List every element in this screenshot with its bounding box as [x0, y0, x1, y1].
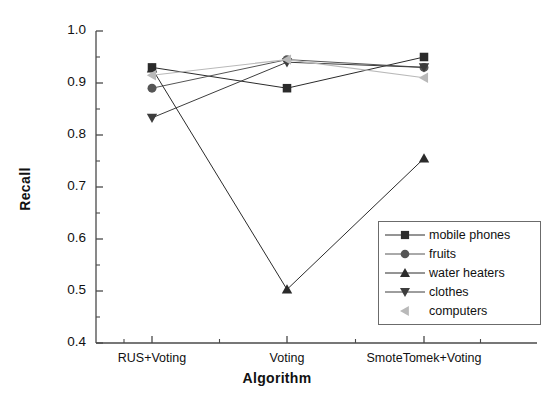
- y-tick-label: 0.7: [40, 178, 86, 193]
- legend-item-label: mobile phones: [427, 228, 510, 242]
- triangle-left-icon: [383, 301, 427, 320]
- triangle-up-icon: [383, 263, 427, 282]
- y-tick-label: 0.8: [40, 126, 86, 141]
- triangle-down-icon: [383, 282, 427, 301]
- y-tick-label: 0.6: [40, 230, 86, 245]
- x-tick-label: SmoteTomek+Voting: [334, 351, 514, 365]
- series-computers: [147, 54, 428, 83]
- circle-icon: [383, 244, 427, 263]
- chart-legend: mobile phonesfruitswater heatersclothesc…: [378, 221, 541, 325]
- legend-item-label: clothes: [427, 285, 469, 299]
- legend-rows: mobile phonesfruitswater heatersclothesc…: [383, 225, 536, 320]
- y-tick-label: 1.0: [40, 22, 86, 37]
- y-tick-label: 0.5: [40, 282, 86, 297]
- legend-item-label: fruits: [427, 247, 456, 261]
- legend-item-water-heaters[interactable]: water heaters: [383, 263, 536, 282]
- x-axis-label: Algorithm: [0, 370, 554, 386]
- chart-figure: Recall Algorithm 0.40.50.60.70.80.91.0 R…: [0, 0, 554, 411]
- square-icon: [383, 225, 427, 244]
- y-tick-label: 0.9: [40, 74, 86, 89]
- legend-item-label: computers: [427, 304, 487, 318]
- y-axis-label-wrapper: Recall: [8, 150, 42, 246]
- y-axis-label: Recall: [17, 141, 33, 237]
- legend-item-label: water heaters: [427, 266, 505, 280]
- y-tick-label: 0.4: [40, 334, 86, 349]
- legend-item-mobile-phones[interactable]: mobile phones: [383, 225, 536, 244]
- plot-area: [0, 0, 554, 411]
- legend-item-computers[interactable]: computers: [383, 301, 536, 320]
- legend-item-clothes[interactable]: clothes: [383, 282, 536, 301]
- legend-item-fruits[interactable]: fruits: [383, 244, 536, 263]
